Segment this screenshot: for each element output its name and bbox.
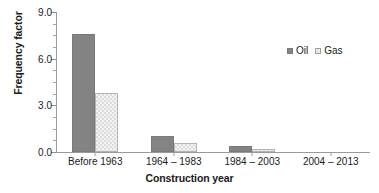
x-axis-title: Construction year: [0, 172, 379, 184]
bar-oil: [229, 146, 252, 152]
x-tick-label: 2004 – 2013: [303, 156, 359, 167]
legend-item-oil: Oil: [287, 45, 308, 56]
bar-group: [213, 12, 292, 152]
bar-gas: [174, 143, 197, 152]
x-axis-ticks: Before 19631964 – 19831984 – 20032004 – …: [56, 156, 370, 170]
bar-gas: [252, 149, 275, 152]
y-tick-label: 3.0: [38, 100, 52, 111]
y-tick-label: 0.0: [38, 147, 52, 158]
y-tick-label: 9.0: [38, 7, 52, 18]
x-tick-label: Before 1963: [68, 156, 123, 167]
bar-group: [135, 12, 214, 152]
bar-chart: Frequency factor 0.03.06.09.0 Before 196…: [0, 0, 379, 193]
plot-area: 0.03.06.09.0: [56, 12, 370, 153]
legend-label: Gas: [324, 45, 342, 56]
x-tick-label: 1984 – 2003: [224, 156, 280, 167]
bar-oil: [151, 136, 174, 152]
legend-label: Oil: [296, 45, 308, 56]
bar-gas: [95, 93, 118, 152]
y-axis-title: Frequency factor: [12, 0, 24, 115]
x-tick-label: 1964 – 1983: [146, 156, 202, 167]
y-tick-label: 6.0: [38, 53, 52, 64]
x-axis-line: [56, 152, 370, 153]
legend-swatch-gas-icon: [315, 48, 321, 54]
bar-group: [56, 12, 135, 152]
bar-group: [292, 12, 371, 152]
legend-item-gas: Gas: [315, 45, 342, 56]
bar-oil: [72, 34, 95, 152]
chart-legend: OilGas: [287, 45, 343, 56]
legend-swatch-oil-icon: [287, 48, 293, 54]
bar-groups: [56, 12, 370, 152]
